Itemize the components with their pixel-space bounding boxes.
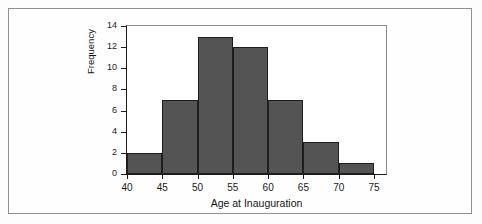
histogram-bars <box>127 26 374 174</box>
y-axis-tick <box>121 111 126 112</box>
y-axis-tick <box>121 47 126 48</box>
y-axis-title: Frequency <box>85 0 97 74</box>
y-axis-tick <box>121 153 126 154</box>
y-axis-tick <box>121 26 126 27</box>
x-axis-tick <box>162 174 163 179</box>
y-axis-tick <box>121 89 126 90</box>
histogram-bar <box>339 163 374 174</box>
y-axis-tick-label: 10 <box>95 63 117 72</box>
x-axis-tick-label: 70 <box>327 182 351 193</box>
figure-border: 02468101214 4045505560657075 Age at Inau… <box>8 8 472 214</box>
x-axis-tick <box>268 174 269 179</box>
y-axis-tick-label: 6 <box>95 106 117 115</box>
x-axis-tick <box>233 174 234 179</box>
x-axis-tick-label: 65 <box>291 182 315 193</box>
histogram-bar <box>198 37 233 174</box>
x-axis-title: Age at Inauguration <box>126 197 387 209</box>
x-axis-tick-label: 75 <box>362 182 386 193</box>
x-axis-tick <box>127 174 128 179</box>
y-axis-tick-label: 14 <box>95 21 117 30</box>
y-axis-tick <box>121 68 126 69</box>
x-axis-tick-label: 45 <box>150 182 174 193</box>
x-axis-tick-label: 60 <box>256 182 280 193</box>
x-axis-tick-label: 40 <box>115 182 139 193</box>
histogram-bar <box>162 100 197 174</box>
y-axis-tick <box>121 174 126 175</box>
figure-root: 02468101214 4045505560657075 Age at Inau… <box>0 0 482 224</box>
x-axis-tick-label: 50 <box>186 182 210 193</box>
x-axis-tick <box>339 174 340 179</box>
x-axis-tick <box>198 174 199 179</box>
y-axis-tick-label: 8 <box>95 84 117 93</box>
histogram-bar <box>303 142 338 174</box>
x-axis-tick <box>303 174 304 179</box>
y-axis-tick-label: 2 <box>95 148 117 157</box>
y-axis-tick-label: 4 <box>95 127 117 136</box>
x-axis-tick <box>374 174 375 179</box>
y-axis-tick-label: 0 <box>95 169 117 178</box>
y-axis-tick-label: 12 <box>95 42 117 51</box>
histogram-bar <box>268 100 303 174</box>
histogram-bar <box>127 153 162 174</box>
y-axis-tick <box>121 132 126 133</box>
x-axis-tick-label: 55 <box>221 182 245 193</box>
histogram-bar <box>233 47 268 174</box>
